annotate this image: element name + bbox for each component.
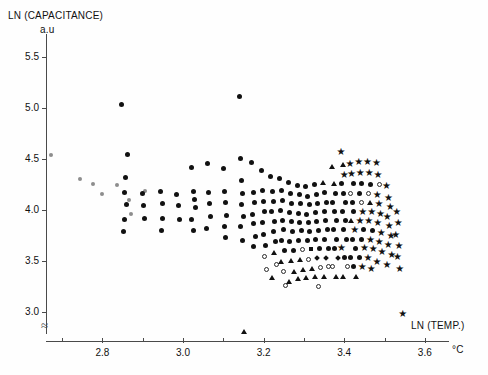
data-point-circle <box>278 208 283 213</box>
data-point-circle <box>340 209 345 214</box>
data-point-star <box>363 253 372 262</box>
data-point-circle <box>119 102 124 107</box>
data-point-circle <box>141 203 146 208</box>
y-axis-tick <box>42 210 47 211</box>
data-point-triangle <box>303 275 309 280</box>
data-point-star <box>360 243 369 252</box>
data-point-star <box>376 209 385 218</box>
data-point-star <box>336 147 345 156</box>
data-point-circle <box>303 184 308 189</box>
x-axis-tick-label: 3.4 <box>327 347 361 358</box>
data-point-triangle <box>367 200 373 205</box>
data-point-star <box>385 221 394 230</box>
y-axis-tick <box>42 108 47 109</box>
data-point-circle <box>260 220 265 225</box>
data-point-circle <box>142 216 147 221</box>
data-point-circle <box>239 178 244 183</box>
x-axis-unit-label: °C <box>452 344 464 355</box>
data-point-open <box>345 264 350 269</box>
y-axis-line <box>46 34 47 334</box>
data-point-circle <box>189 217 194 222</box>
data-point-circle <box>277 176 282 181</box>
data-point-triangle <box>353 274 359 279</box>
data-point-circle <box>305 238 310 243</box>
data-point-circle <box>359 181 364 186</box>
data-point-triangle <box>291 269 297 274</box>
data-point-circle <box>140 191 145 196</box>
y-axis-tick-label: 3.0 <box>13 306 39 317</box>
data-point-circle <box>193 205 198 210</box>
data-point-circle <box>305 194 310 199</box>
data-point-star <box>372 257 381 266</box>
data-point-circle <box>252 200 257 205</box>
data-point-star <box>367 264 376 273</box>
x-axis-tick-label: 3.2 <box>247 347 281 358</box>
x-axis-tick <box>344 338 345 343</box>
data-point-circle <box>323 218 328 223</box>
data-point-open <box>264 267 269 272</box>
data-point-circle <box>238 156 243 161</box>
data-point-circle <box>237 94 242 99</box>
data-point-faint <box>127 198 131 202</box>
data-point-circle <box>206 190 211 195</box>
data-point-triangle <box>329 164 335 169</box>
data-point-star <box>387 250 396 259</box>
data-point-circle <box>221 166 226 171</box>
data-point-circle <box>241 214 246 219</box>
data-point-circle <box>330 200 335 205</box>
y-axis-tick-label: 3.5 <box>13 255 39 266</box>
data-point-open <box>281 269 286 274</box>
data-point-circle <box>357 255 362 260</box>
data-point-circle <box>280 218 285 223</box>
data-point-diamond <box>323 255 329 261</box>
y-axis-tick-label: 4.0 <box>13 204 39 215</box>
y-axis-title: LN (CAPACITANCE) <box>8 10 103 21</box>
data-point-circle <box>261 232 266 237</box>
data-point-circle <box>123 175 128 180</box>
data-point-circle <box>268 174 273 179</box>
data-point-circle <box>331 227 336 232</box>
data-point-star <box>386 231 395 240</box>
data-point-circle <box>297 192 302 197</box>
x-axis-minor-tick <box>304 338 305 342</box>
data-point-star <box>377 228 386 237</box>
data-point-star <box>372 158 381 167</box>
data-point-faint <box>49 153 53 157</box>
data-point-star <box>393 252 402 261</box>
data-point-star <box>363 157 372 166</box>
data-point-circle <box>222 189 227 194</box>
data-point-star <box>365 168 374 177</box>
y-axis-tick-label: 5.5 <box>13 51 39 62</box>
data-point-circle <box>269 209 274 214</box>
data-point-circle <box>307 202 312 207</box>
data-point-circle <box>263 243 268 248</box>
data-point-circle <box>261 199 266 204</box>
data-point-circle <box>207 201 212 206</box>
data-point-circle <box>281 227 286 232</box>
data-point-circle <box>343 218 348 223</box>
data-point-circle <box>313 210 318 215</box>
data-point-circle <box>121 229 126 234</box>
data-point-star <box>375 237 384 246</box>
data-point-circle <box>289 219 294 224</box>
data-point-circle <box>279 238 284 243</box>
data-point-diamond <box>314 255 320 261</box>
data-point-circle <box>282 248 287 253</box>
data-point-circle <box>370 228 375 233</box>
data-point-star <box>373 190 382 199</box>
data-point-circle <box>351 209 356 214</box>
data-point-circle <box>353 246 358 251</box>
scatter-plot-figure: LN (CAPACITANCE) a.u LN (TEMP.) °C ≈ 3.0… <box>0 0 488 375</box>
data-point-circle <box>250 212 255 217</box>
x-axis-tick <box>425 338 426 343</box>
data-point-circle <box>176 203 181 208</box>
data-point-star <box>354 157 363 166</box>
data-point-star <box>347 169 356 178</box>
data-point-circle <box>251 244 256 249</box>
data-point-circle <box>332 209 337 214</box>
data-point-open <box>262 254 267 259</box>
data-point-circle <box>205 161 210 166</box>
x-axis-tick-label: 3.0 <box>166 347 200 358</box>
data-point-star <box>356 168 365 177</box>
data-point-open <box>330 264 335 269</box>
